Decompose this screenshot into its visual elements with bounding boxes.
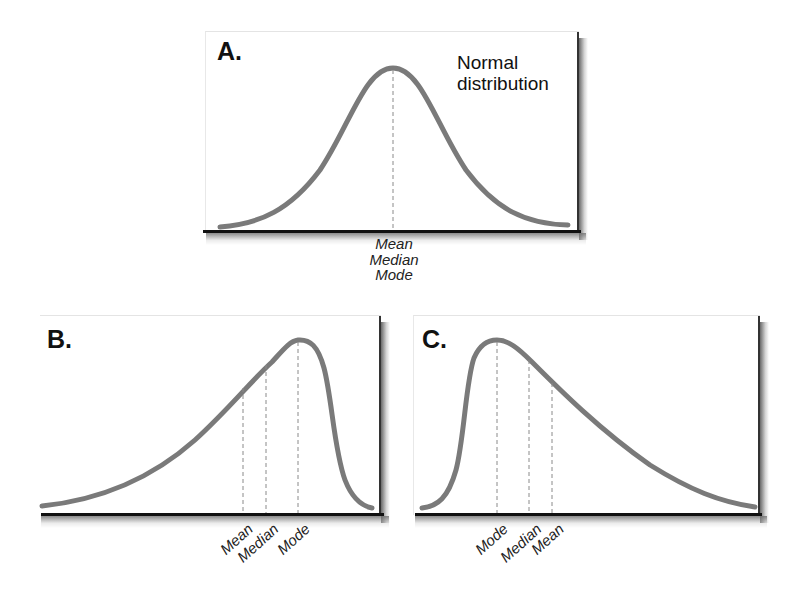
panel-c-right-skewed-curve bbox=[422, 340, 755, 508]
panel-b-left-skewed-curve bbox=[42, 340, 372, 508]
curves-layer bbox=[0, 0, 805, 596]
panel-a-normal-curve bbox=[220, 68, 568, 227]
